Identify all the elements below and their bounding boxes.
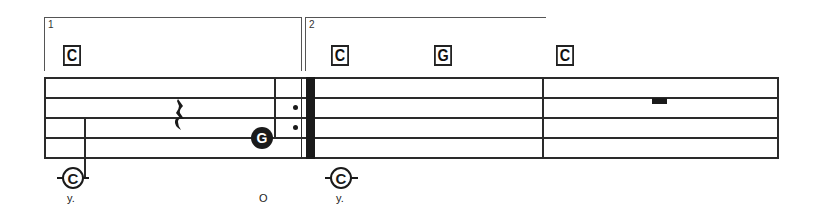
quarter-rest-icon [172,98,188,132]
lyric-syllable: O [259,192,268,204]
chord-symbol: C [63,45,81,66]
volta-number-1: 1 [48,19,54,30]
note-stem [84,117,86,178]
half-rest-icon [652,98,667,104]
barline-end [777,77,779,159]
chord-symbol: C [556,45,574,66]
note-head-c: C [62,167,84,189]
lyric-syllable: y. [67,192,75,204]
note-stem [274,77,276,137]
volta-number-2: 2 [309,19,315,30]
chord-symbol: C [331,45,349,66]
note-head-c: C [330,167,352,189]
barline [542,77,544,159]
music-score: 1 2 C C G C G C C y. O [0,0,818,222]
chord-symbol: G [434,45,452,66]
barline-start [44,77,46,159]
note-head-g: G [251,127,273,149]
lyric-syllable: y. [336,192,344,204]
